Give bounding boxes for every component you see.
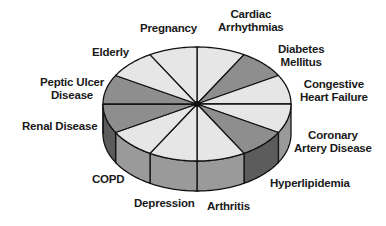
label-diabetes-mellitus: DiabetesMellitus bbox=[278, 43, 324, 69]
label-peptic-ulcer-disease: Peptic UlcerDisease bbox=[40, 76, 104, 102]
label-elderly: Elderly bbox=[92, 46, 129, 59]
label-copd: COPD bbox=[92, 173, 124, 186]
pie-center-hub bbox=[194, 101, 200, 107]
label-cardiac-arrhythmias: CardiacArrhythmias bbox=[218, 8, 284, 34]
label-congestive-heart-failure: CongestiveHeart Failure bbox=[300, 78, 368, 104]
label-coronary-artery-disease: CoronaryArtery Disease bbox=[294, 129, 372, 155]
label-depression: Depression bbox=[134, 197, 195, 210]
label-renal-disease: Renal Disease bbox=[22, 120, 97, 133]
label-pregnancy: Pregnancy bbox=[140, 22, 197, 35]
label-hyperlipidemia: Hyperlipidemia bbox=[270, 177, 350, 190]
label-arthritis: Arthritis bbox=[207, 200, 250, 213]
